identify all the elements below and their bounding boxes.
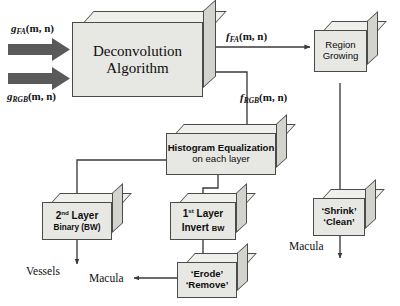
label-output-macula-left: Macula: [89, 272, 123, 284]
label-edge-f-rgb: fRGB(m, n): [240, 91, 287, 103]
second-layer-line-2: Binary (BW): [54, 223, 101, 232]
erode-line-2: ‘Remove’: [186, 280, 229, 291]
box-front-face: 2nd Layer Binary (BW): [42, 202, 112, 240]
flowchart-canvas: Deconvolution Algorithm Region Growing H…: [0, 0, 400, 306]
node-first-layer[interactable]: 1st Layer Invert BW: [170, 202, 236, 240]
input-block-arrows: [8, 38, 70, 90]
box-front-face: Deconvolution Algorithm: [72, 22, 203, 97]
label-output-macula-right: Macula: [289, 240, 323, 252]
node-erode-remove[interactable]: ‘Erode’ ‘Remove’: [177, 262, 237, 298]
first-layer-line-2: Invert BW: [182, 222, 225, 234]
box-front-face: Histogram Equalization on each layer: [166, 133, 276, 175]
shrink-line-2: ‘Clean’: [323, 217, 354, 228]
box-front-face: Region Growing: [314, 30, 367, 72]
block-arrow-g-rgb: [8, 67, 70, 90]
node-histogram-equalization[interactable]: Histogram Equalization on each layer: [166, 133, 276, 175]
label-edge-f-fa: fFA(m, n): [226, 30, 267, 42]
box-front-face: ‘Erode’ ‘Remove’: [177, 262, 237, 298]
node-region-growing[interactable]: Region Growing: [314, 30, 367, 72]
node-deconvolution-algorithm[interactable]: Deconvolution Algorithm: [72, 22, 203, 97]
box-front-face: ‘Shrink’ ‘Clean’: [313, 198, 365, 236]
region-line-2: Growing: [323, 51, 359, 62]
block-arrow-g-fa: [8, 38, 70, 61]
label-output-vessels: Vessels: [26, 265, 60, 277]
first-layer-line-1: 1st Layer: [183, 208, 224, 220]
label-input-g-fa: gFA(m, n): [11, 22, 54, 34]
node-shrink-clean[interactable]: ‘Shrink’ ‘Clean’: [313, 198, 365, 236]
box-front-face: 1st Layer Invert BW: [170, 202, 236, 240]
second-layer-line-1: 2nd Layer: [56, 210, 99, 222]
box-side-face: [203, 0, 216, 88]
decon-line-1: Deconvolution: [93, 43, 182, 60]
decon-line-2: Algorithm: [106, 60, 169, 77]
node-second-layer[interactable]: 2nd Layer Binary (BW): [42, 202, 112, 240]
label-input-g-rgb: gRGB(m, n): [7, 90, 56, 102]
histogram-line-2: on each layer: [192, 154, 250, 165]
